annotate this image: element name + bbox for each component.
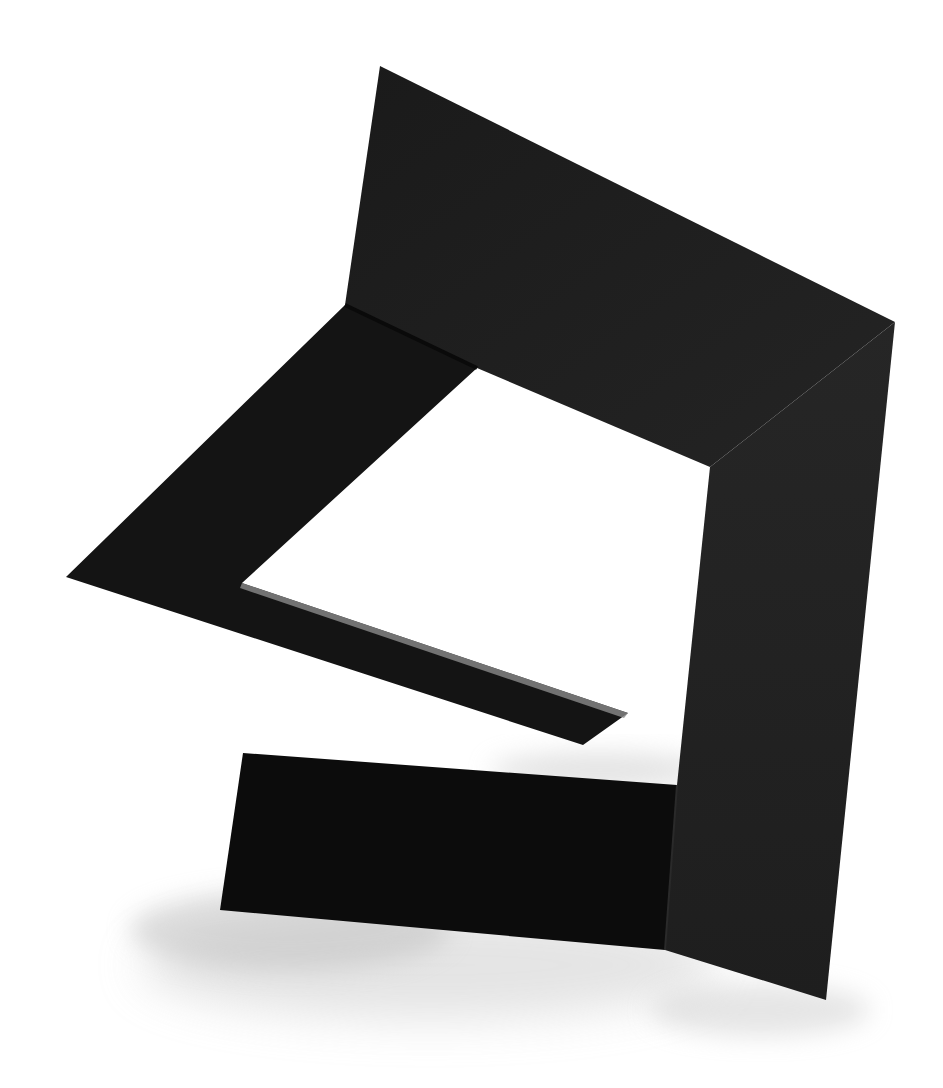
sculpture-photo [0, 0, 943, 1088]
